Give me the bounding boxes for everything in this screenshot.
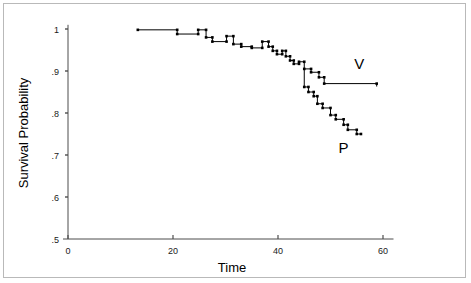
series-annotations: VP [339,55,365,156]
y-axis-tick-label: .9 [51,67,59,77]
data-series-group [137,29,378,136]
data-point-marker [267,45,270,48]
data-point-marker [225,40,228,43]
data-point-marker [276,53,279,56]
data-point-marker [323,82,326,85]
data-point-marker [375,82,378,85]
data-point-marker [347,129,350,132]
data-point-marker [271,50,274,53]
data-point-marker [316,102,319,105]
data-point-marker [240,43,243,46]
data-point-marker [329,107,332,110]
data-point-marker [205,29,208,32]
data-point-marker [310,68,313,71]
data-point-marker [312,95,315,98]
data-point-marker [281,50,284,53]
data-point-marker [211,36,214,39]
data-point-marker [137,29,140,32]
data-point-marker [197,29,200,32]
data-point-marker [232,35,235,38]
data-point-marker [342,123,345,126]
data-point-marker [334,118,337,121]
data-point-marker [355,129,358,132]
data-point-marker [281,53,284,56]
y-axis-tick-label: .8 [51,109,59,119]
data-point-marker [205,36,208,39]
data-point-marker [323,76,326,79]
data-point-marker [197,33,200,36]
data-point-marker [271,45,274,48]
data-point-marker [298,60,301,63]
x-axis-tick-label: 0 [65,246,70,256]
data-point-marker [312,91,315,94]
y-axis-tick-label: .6 [51,193,59,203]
data-point-marker [318,76,321,79]
data-point-marker [276,50,279,53]
data-point-marker [176,29,179,32]
series-p [303,69,362,135]
data-point-marker [285,55,288,58]
series-step-line [138,30,377,87]
figure-root: .5.6.7.8.91 0204060 VP Time Survival Pro… [0,0,471,283]
data-point-marker [355,133,358,136]
data-point-marker [318,71,321,74]
data-point-marker [321,102,324,105]
data-point-marker [329,114,332,117]
series-v [137,29,378,87]
data-point-marker [261,47,264,50]
series-label-p: P [339,139,349,156]
data-point-marker [307,86,310,89]
y-axis-tick-label: 1 [54,25,59,35]
data-point-marker [334,114,337,117]
data-point-marker [292,59,295,62]
data-point-marker [289,55,292,58]
data-point-marker [303,60,306,63]
data-point-marker [225,35,228,38]
y-axis-tick-label: .7 [51,151,59,161]
y-axis: .5.6.7.8.91 [51,25,68,245]
data-point-marker [176,33,179,36]
data-point-marker [321,107,324,110]
series-step-line [304,69,361,134]
x-axis-tick-label: 60 [378,246,388,256]
survival-plot-svg: .5.6.7.8.91 0204060 VP Time Survival Pro… [0,0,471,283]
data-point-marker [360,133,363,136]
series-label-v: V [354,55,364,72]
data-point-marker [240,45,243,48]
data-point-marker [316,95,319,98]
data-point-marker [232,43,235,46]
data-point-marker [342,118,345,121]
y-axis-title: Survival Probability [16,77,31,188]
data-point-marker [285,50,288,53]
x-axis-title: Time [218,260,246,275]
data-point-marker [289,59,292,62]
data-point-marker [307,91,310,94]
x-axis-tick-label: 40 [273,246,283,256]
data-point-marker [261,40,264,43]
x-axis: 0204060 [65,235,393,256]
data-point-marker [310,71,313,74]
data-point-marker [303,86,306,89]
data-point-marker [211,40,214,43]
data-point-marker [267,40,270,43]
data-point-marker [292,63,295,66]
x-axis-tick-label: 20 [168,246,178,256]
data-point-marker [347,123,350,126]
data-point-marker [250,47,253,50]
y-axis-tick-label: .5 [51,235,59,245]
